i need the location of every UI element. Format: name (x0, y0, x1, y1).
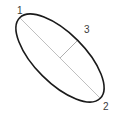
vertex-label-2: 2 (103, 102, 109, 112)
semi-minor-axis-line (60, 40, 78, 58)
ellipse-diagram: 1 2 3 (0, 0, 117, 117)
ellipse-drawing-canvas (0, 0, 117, 117)
semi-minor-axis-label-3: 3 (84, 25, 90, 35)
vertex-label-1: 1 (17, 6, 23, 16)
